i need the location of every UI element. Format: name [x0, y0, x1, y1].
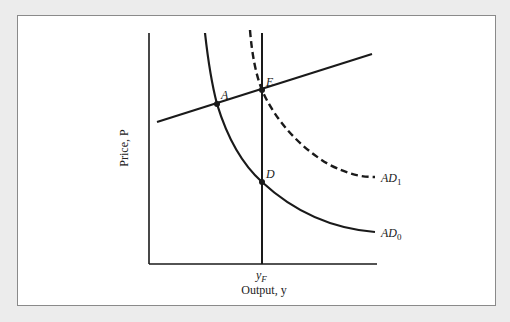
- point-e-marker: [259, 87, 265, 93]
- x-tick-yF: yF: [255, 268, 267, 284]
- ad1-curve: [250, 30, 375, 177]
- diagram-canvas: A E D AD1 AD0 yF Output, y Price, P: [0, 0, 510, 322]
- point-a-marker: [214, 101, 220, 107]
- y-axis-title: Price, P: [117, 129, 131, 167]
- ad0-label: AD0: [380, 226, 402, 242]
- point-d-label: D: [265, 167, 275, 181]
- point-a-label: A: [220, 88, 229, 102]
- point-e-label: E: [265, 75, 274, 89]
- upward-sloping-line: [157, 54, 372, 122]
- ad1-label: AD1: [380, 171, 402, 187]
- x-axis-title: Output, y: [241, 283, 286, 297]
- point-d-marker: [259, 179, 265, 185]
